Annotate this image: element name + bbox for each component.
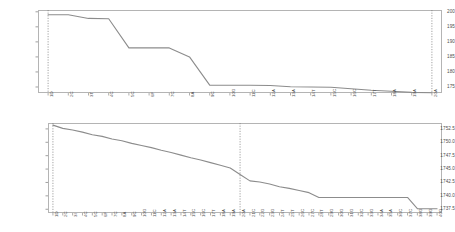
y-tick-label: 185 [421, 55, 455, 60]
x-tick-label: 30G [340, 209, 344, 217]
x-tick-label: 38G [419, 209, 423, 217]
series-path [48, 15, 432, 93]
series-path [53, 125, 437, 209]
x-tick-label: 5C [131, 91, 135, 97]
x-tick-label: 14T [183, 209, 187, 217]
x-tick-label: 4C [110, 91, 114, 97]
y-tick-label: 1752.5 [411, 127, 455, 132]
x-tick-label: 40G [439, 209, 443, 217]
x-tick-label: 20A [434, 89, 438, 97]
x-tick-label: 34A [380, 209, 384, 217]
x-tick-label: 35A [389, 209, 393, 217]
x-tick-label: 7C [171, 91, 175, 97]
y-tick-label: 195 [421, 25, 455, 30]
chart-canvas: 200195190185180175 1D2C3T4C5C6F7C8A9C10G… [0, 0, 455, 232]
x-tick-label: 14T [312, 89, 316, 97]
y-tick-label: 1745.0 [411, 167, 455, 172]
x-tick-label: 16C [353, 89, 357, 97]
x-tick-label: 16C [202, 209, 206, 217]
x-tick-label: 2C [64, 211, 68, 217]
x-tick-label: 18A [393, 89, 397, 97]
x-tick-label: 13A [292, 89, 296, 97]
x-tick-label: 13A [173, 209, 177, 217]
x-tick-label: 3T [90, 92, 94, 97]
x-tick-label: 21C [252, 209, 256, 217]
x-tick-label: 15C [333, 89, 337, 97]
chart-panel-bottom: 1752.51750.01747.51745.01742.51740.01737… [0, 116, 455, 232]
x-tick-label: 8A [123, 212, 127, 217]
x-tick-label: 10G [232, 89, 236, 97]
y-tick-label: 1742.5 [411, 180, 455, 185]
x-tick-label: 9C [133, 211, 137, 217]
x-tick-label: 2C [70, 91, 74, 97]
y-tick-label: 1750.0 [411, 140, 455, 145]
x-tick-label: 25T [291, 209, 295, 217]
x-tick-label: 23G [271, 209, 275, 217]
x-tick-label: 11C [153, 209, 157, 217]
x-tick-label: 15C [192, 209, 196, 217]
x-tick-label: 10G [143, 209, 147, 217]
x-tick-label: 12A [163, 209, 167, 217]
x-tick-label: 19A [232, 209, 236, 217]
x-tick-label: 19A [413, 89, 417, 97]
x-tick-label: 39G [429, 209, 433, 217]
plot-area-top: 200195190185180175 1D2C3T4C5C6F7C8A9C10G… [0, 0, 455, 116]
x-tick-label: 31G [350, 209, 354, 217]
plot-area-bottom: 1752.51750.01747.51745.01742.51740.01737… [0, 116, 455, 232]
x-tick-label: 33G [370, 209, 374, 217]
y-tick-label: 180 [421, 70, 455, 75]
x-tick-label: 24T [281, 209, 285, 217]
x-tick-label: 5C [94, 211, 98, 217]
x-tick-label: 1D [50, 91, 54, 97]
series-line-top [0, 0, 455, 116]
x-tick-label: 6F [104, 212, 108, 217]
x-tick-label: 20A [242, 209, 246, 217]
x-tick-label: 28T [320, 209, 324, 217]
x-tick-label: 37C [409, 209, 413, 217]
y-tick-label: 1740.0 [411, 194, 455, 199]
y-tick-label: 190 [421, 40, 455, 45]
x-tick-label: 36C [399, 209, 403, 217]
x-tick-label: 11C [252, 89, 256, 97]
x-tick-label: 9C [211, 91, 215, 97]
x-tick-label: 26C [301, 209, 305, 217]
x-tick-label: 17T [212, 209, 216, 217]
x-tick-label: 17T [373, 89, 377, 97]
x-tick-label: 8A [191, 92, 195, 97]
x-tick-label: 6F [151, 92, 155, 97]
x-tick-label: 27C [311, 209, 315, 217]
x-tick-label: 22G [261, 209, 265, 217]
x-tick-label: 18A [222, 209, 226, 217]
x-tick-label: 1D [55, 211, 59, 217]
y-tick-label: 1747.5 [411, 153, 455, 158]
x-tick-label: 32C [360, 209, 364, 217]
x-tick-label: 3I [74, 213, 78, 217]
x-tick-label: 7C [114, 211, 118, 217]
x-tick-label: 29G [330, 209, 334, 217]
x-tick-label: 4C [84, 211, 88, 217]
chart-panel-top: 200195190185180175 1D2C3T4C5C6F7C8A9C10G… [0, 0, 455, 116]
x-tick-label: 12A [272, 89, 276, 97]
y-tick-label: 200 [421, 10, 455, 15]
